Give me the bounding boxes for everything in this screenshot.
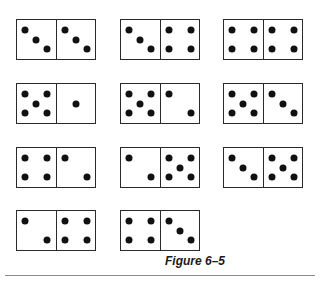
domino-half-right [56, 20, 96, 59]
domino-half-left [17, 148, 56, 187]
pip-dot-icon [290, 46, 297, 53]
pip-dot-icon [251, 110, 258, 117]
domino-half-left [17, 84, 56, 123]
domino-2-4 [16, 210, 96, 251]
pip-dot-icon [290, 174, 297, 181]
pip-dot-icon [268, 26, 275, 33]
domino-4-4 [223, 19, 303, 60]
pip-dot-icon [165, 174, 172, 181]
pip-dot-icon [268, 154, 275, 161]
pip-dot-icon [126, 217, 133, 224]
pip-dot-icon [72, 100, 79, 107]
pip-dot-icon [126, 154, 133, 161]
domino-half-right [263, 148, 303, 187]
pip-dot-icon [22, 90, 29, 97]
domino-half-right [56, 148, 96, 187]
pip-dot-icon [44, 110, 51, 117]
pip-dot-icon [251, 174, 258, 181]
pip-dot-icon [44, 237, 51, 244]
pip-dot-icon [165, 46, 172, 53]
pip-dot-icon [33, 36, 40, 43]
domino-5-3 [223, 83, 303, 124]
pip-dot-icon [229, 90, 236, 97]
domino-half-right [160, 84, 200, 123]
pip-dot-icon [290, 110, 297, 117]
pip-dot-icon [148, 174, 155, 181]
pip-dot-icon [22, 174, 29, 181]
pip-dot-icon [176, 227, 183, 234]
domino-half-right [160, 211, 200, 250]
pip-dot-icon [187, 110, 194, 117]
pip-dot-icon [83, 174, 90, 181]
pip-dot-icon [268, 174, 275, 181]
domino-half-left [224, 20, 263, 59]
pip-dot-icon [229, 154, 236, 161]
domino-4-3 [120, 210, 200, 251]
pip-dot-icon [165, 26, 172, 33]
pip-dot-icon [126, 237, 133, 244]
domino-5-1 [16, 83, 96, 124]
domino-half-right [56, 211, 96, 250]
pip-dot-icon [44, 90, 51, 97]
pip-dot-icon [44, 46, 51, 53]
domino-half-left [224, 148, 263, 187]
pip-dot-icon [22, 26, 29, 33]
domino-half-right [160, 148, 200, 187]
pip-dot-icon [148, 46, 155, 53]
pip-dot-icon [72, 36, 79, 43]
pip-dot-icon [126, 90, 133, 97]
domino-3-3 [16, 19, 96, 60]
pip-dot-icon [240, 100, 247, 107]
pip-dot-icon [187, 237, 194, 244]
pip-dot-icon [33, 100, 40, 107]
pip-dot-icon [290, 154, 297, 161]
pip-dot-icon [165, 154, 172, 161]
domino-half-right [263, 84, 303, 123]
domino-half-left [17, 211, 56, 250]
pip-dot-icon [148, 110, 155, 117]
pip-dot-icon [187, 154, 194, 161]
pip-dot-icon [83, 46, 90, 53]
domino-half-left [121, 84, 160, 123]
pip-dot-icon [290, 26, 297, 33]
domino-3-4 [120, 19, 200, 60]
pip-dot-icon [44, 174, 51, 181]
pip-dot-icon [229, 26, 236, 33]
domino-half-left [224, 84, 263, 123]
pip-dot-icon [61, 154, 68, 161]
domino-half-left [17, 20, 56, 59]
domino-4-2 [16, 147, 96, 188]
pip-dot-icon [187, 46, 194, 53]
domino-half-left [121, 148, 160, 187]
pip-dot-icon [165, 217, 172, 224]
pip-dot-icon [83, 217, 90, 224]
domino-half-left [121, 211, 160, 250]
pip-dot-icon [61, 26, 68, 33]
pip-dot-icon [148, 217, 155, 224]
pip-dot-icon [251, 46, 258, 53]
pip-dot-icon [61, 217, 68, 224]
horizontal-rule [5, 275, 315, 276]
domino-2-5 [120, 147, 200, 188]
pip-dot-icon [251, 90, 258, 97]
domino-3-5 [223, 147, 303, 188]
pip-dot-icon [22, 154, 29, 161]
pip-dot-icon [279, 100, 286, 107]
pip-dot-icon [187, 26, 194, 33]
pip-dot-icon [126, 26, 133, 33]
pip-dot-icon [187, 174, 194, 181]
pip-dot-icon [268, 46, 275, 53]
pip-dot-icon [251, 26, 258, 33]
pip-dot-icon [240, 164, 247, 171]
pip-dot-icon [229, 46, 236, 53]
pip-dot-icon [22, 110, 29, 117]
figure-caption: Figure 6–5 [120, 254, 270, 268]
pip-dot-icon [165, 90, 172, 97]
pip-dot-icon [126, 110, 133, 117]
domino-half-right [56, 84, 96, 123]
domino-half-right [160, 20, 200, 59]
pip-dot-icon [137, 100, 144, 107]
pip-dot-icon [148, 90, 155, 97]
pip-dot-icon [44, 154, 51, 161]
pip-dot-icon [268, 90, 275, 97]
